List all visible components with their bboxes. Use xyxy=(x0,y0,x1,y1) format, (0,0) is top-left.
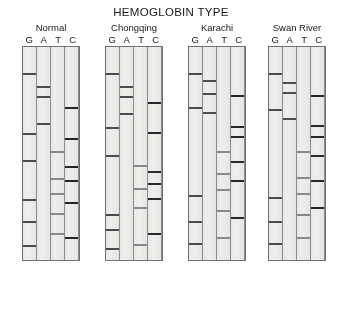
dna-band xyxy=(120,86,133,88)
dna-band xyxy=(106,73,119,75)
gel-panel-swan-river: Swan RiverGATC xyxy=(268,22,326,261)
sequencing-gel-figure: HEMOGLOBIN TYPE NormalGATCChongqingGATCK… xyxy=(0,0,342,321)
dna-band xyxy=(231,217,244,219)
dna-band xyxy=(106,127,119,129)
gel-panel-chongqing: ChongqingGATC xyxy=(105,22,163,261)
lane-header-C: C xyxy=(66,33,81,46)
dna-band xyxy=(189,107,202,109)
gel-lane-G xyxy=(189,47,203,260)
lane-header-G: G xyxy=(188,33,203,46)
dna-band xyxy=(51,151,64,153)
lane-header-G: G xyxy=(22,33,37,46)
dna-band xyxy=(120,96,133,98)
panel-title: Normal xyxy=(22,22,80,33)
lane-header-G: G xyxy=(268,33,283,46)
dna-band xyxy=(148,132,161,134)
lane-header-A: A xyxy=(120,33,135,46)
gel-lane-C xyxy=(231,47,245,260)
dna-band xyxy=(203,80,216,82)
gel-lane-G xyxy=(269,47,283,260)
gel-lane-C xyxy=(311,47,325,260)
dna-band xyxy=(65,202,78,204)
dna-band xyxy=(269,73,282,75)
dna-band xyxy=(23,73,36,75)
dna-band xyxy=(148,102,161,104)
dna-band xyxy=(217,237,230,239)
lane-header-T: T xyxy=(134,33,149,46)
dna-band xyxy=(106,155,119,157)
dna-band xyxy=(37,123,50,125)
gel-lane-A xyxy=(37,47,51,260)
dna-band xyxy=(269,109,282,111)
gel-box xyxy=(22,46,80,261)
lane-header-T: T xyxy=(51,33,66,46)
dna-band xyxy=(283,82,296,84)
dna-band xyxy=(106,248,119,250)
page-title: HEMOGLOBIN TYPE xyxy=(0,6,342,18)
gel-lane-T xyxy=(51,47,65,260)
dna-band xyxy=(297,237,310,239)
panel-title: Swan River xyxy=(268,22,326,33)
dna-band xyxy=(269,197,282,199)
dna-band xyxy=(148,183,161,185)
dna-band xyxy=(23,245,36,247)
dna-band xyxy=(65,107,78,109)
gel-lane-T xyxy=(134,47,148,260)
dna-band xyxy=(37,86,50,88)
dna-band xyxy=(297,214,310,216)
gel-lane-C xyxy=(65,47,79,260)
dna-band xyxy=(23,160,36,162)
dna-band xyxy=(189,243,202,245)
dna-band xyxy=(65,138,78,140)
dna-band xyxy=(231,95,244,97)
dna-band xyxy=(311,180,324,182)
dna-band xyxy=(297,151,310,153)
dna-band xyxy=(23,221,36,223)
dna-band xyxy=(283,92,296,94)
lane-header-row: GATC xyxy=(22,33,80,46)
lane-header-row: GATC xyxy=(188,33,246,46)
gel-box xyxy=(188,46,246,261)
gel-lane-C xyxy=(148,47,162,260)
dna-band xyxy=(148,233,161,235)
dna-band xyxy=(217,210,230,212)
dna-band xyxy=(51,213,64,215)
gel-panel-normal: NormalGATC xyxy=(22,22,80,261)
dna-band xyxy=(269,243,282,245)
dna-band xyxy=(297,193,310,195)
dna-band xyxy=(217,189,230,191)
gel-panel-karachi: KarachiGATC xyxy=(188,22,246,261)
dna-band xyxy=(51,233,64,235)
dna-band xyxy=(134,165,147,167)
lane-header-C: C xyxy=(149,33,164,46)
lane-header-C: C xyxy=(312,33,327,46)
dna-band xyxy=(189,221,202,223)
dna-band xyxy=(189,195,202,197)
dna-band xyxy=(37,96,50,98)
dna-band xyxy=(134,207,147,209)
dna-band xyxy=(311,136,324,138)
dna-band xyxy=(106,214,119,216)
lane-header-G: G xyxy=(105,33,120,46)
dna-band xyxy=(189,73,202,75)
lane-header-A: A xyxy=(37,33,52,46)
dna-band xyxy=(231,161,244,163)
dna-band xyxy=(231,180,244,182)
dna-band xyxy=(203,112,216,114)
lane-header-row: GATC xyxy=(105,33,163,46)
gel-box xyxy=(268,46,326,261)
gel-box xyxy=(105,46,163,261)
dna-band xyxy=(311,155,324,157)
dna-band xyxy=(148,171,161,173)
lane-header-A: A xyxy=(203,33,218,46)
lane-header-A: A xyxy=(283,33,298,46)
dna-band xyxy=(51,193,64,195)
dna-band xyxy=(269,221,282,223)
lane-header-T: T xyxy=(217,33,232,46)
gel-lane-A xyxy=(283,47,297,260)
dna-band xyxy=(311,95,324,97)
dna-band xyxy=(217,173,230,175)
dna-band xyxy=(106,229,119,231)
gel-lane-G xyxy=(23,47,37,260)
dna-band xyxy=(51,178,64,180)
